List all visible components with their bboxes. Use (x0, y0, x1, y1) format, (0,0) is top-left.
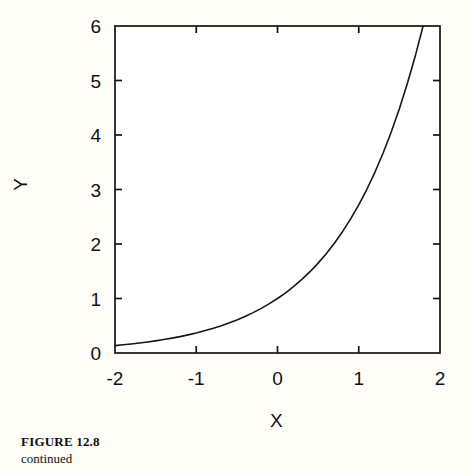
figure-container: 0123456 -2-1012 Y X FIGURE 12.8 continue… (0, 0, 469, 475)
x-axis-title: X (270, 411, 283, 430)
y-tick-label: 2 (90, 235, 101, 254)
y-tick-label: 5 (90, 71, 101, 90)
y-tick-label: 0 (90, 344, 101, 363)
y-tick-label: 6 (90, 17, 101, 36)
x-tick-label: -2 (107, 369, 124, 388)
x-tick-label: 0 (272, 369, 283, 388)
x-tick-label: -1 (188, 369, 205, 388)
y-tick-label: 3 (90, 180, 101, 199)
y-axis-title: Y (11, 178, 30, 191)
y-tick-label: 4 (90, 126, 101, 145)
figure-caption-title: FIGURE 12.8 (21, 434, 100, 450)
exponential-curve-chart (0, 0, 469, 400)
plot-background (115, 26, 440, 353)
x-tick-label: 1 (353, 369, 364, 388)
figure-caption: FIGURE 12.8 continued (21, 434, 100, 466)
plot-area: 0123456 -2-1012 Y X (0, 0, 469, 400)
y-tick-label: 1 (90, 289, 101, 308)
x-tick-label: 2 (435, 369, 446, 388)
figure-caption-subtitle: continued (21, 451, 100, 467)
